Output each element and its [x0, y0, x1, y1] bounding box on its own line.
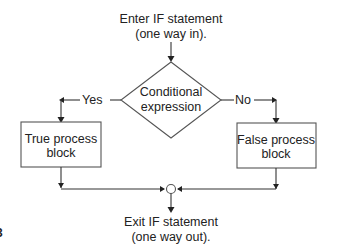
false-block-label-line2: block [261, 147, 291, 161]
entry-label-line1: Enter IF statement [120, 12, 223, 26]
false-block-label-line1: False process [237, 133, 315, 147]
if-statement-flowchart: Enter IF statement (one way in). Conditi… [0, 0, 338, 252]
false-exit-arrowhead-down [273, 184, 279, 189]
true-exit-arrowhead-down [58, 183, 64, 188]
margin-figure-mark: 3 [0, 226, 3, 240]
true-merge-arrowhead [160, 186, 165, 192]
merge-junction [167, 185, 176, 194]
decision-label-line1: Conditional [140, 85, 203, 99]
exit-label-line1: Exit IF statement [124, 215, 218, 229]
decision-label-line2: expression [141, 100, 201, 114]
false-merge-arrowhead [177, 186, 182, 192]
no-label: No [235, 93, 251, 107]
exit-arrowhead [168, 207, 175, 213]
entry-arrowhead [168, 56, 175, 62]
yes-label: Yes [82, 93, 102, 107]
true-block-label-line1: True process [25, 132, 97, 146]
true-block-label-line2: block [46, 146, 76, 160]
exit-label-line2: (one way out). [131, 230, 210, 244]
entry-label-line2: (one way in). [135, 27, 207, 41]
